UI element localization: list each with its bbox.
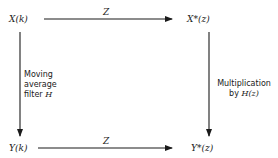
node-x-star-z: X*(z) <box>187 14 210 24</box>
node-y-star-z: Y*(z) <box>191 143 213 153</box>
right-edge-annotation: Multiplication by H(z) <box>213 79 275 99</box>
right-annotation-line2: by H(z) <box>213 89 275 99</box>
node-y-k: Y(k) <box>9 143 27 153</box>
left-edge-annotation: Moving average filter H <box>24 70 57 100</box>
filter-symbol-h: H <box>45 90 52 99</box>
node-x-k: X(k) <box>9 14 28 24</box>
left-annotation-line2: average <box>24 80 57 90</box>
top-edge-label: Z <box>103 7 109 17</box>
left-annotation-line1: Moving <box>24 70 57 80</box>
right-annotation-prefix: by <box>229 89 241 98</box>
right-annotation-line1: Multiplication <box>213 79 275 89</box>
bottom-edge-label: Z <box>103 136 109 146</box>
transfer-symbol-hz: H(z) <box>241 89 258 98</box>
left-annotation-prefix: filter <box>24 90 45 99</box>
left-annotation-line3: filter H <box>24 90 57 100</box>
commutative-diagram: X(k) X*(z) Y(k) Y*(z) Z Z Moving average… <box>0 0 278 158</box>
